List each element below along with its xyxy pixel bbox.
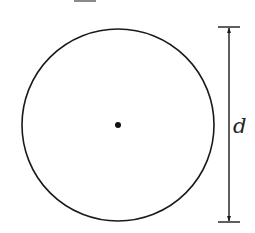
center-point — [115, 122, 121, 128]
circle-diameter-diagram: d — [0, 0, 255, 233]
top-edge-bar — [74, 0, 96, 2]
diameter-label: d — [233, 114, 246, 138]
